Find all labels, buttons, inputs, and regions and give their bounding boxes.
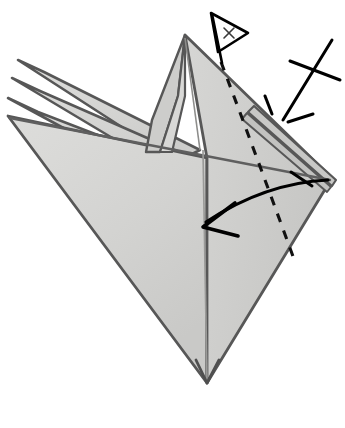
origami-diagram-stage	[0, 0, 345, 428]
x-flag-pointer	[211, 13, 248, 63]
pull-marker-stem	[283, 40, 332, 120]
main-body-left-half	[8, 116, 207, 383]
pull-marker-cross	[290, 61, 340, 80]
pull-marker-tick-a	[265, 96, 272, 114]
origami-illustration	[0, 0, 345, 428]
pull-marker-tick-b	[288, 114, 313, 122]
main-body-right-half	[185, 35, 332, 383]
